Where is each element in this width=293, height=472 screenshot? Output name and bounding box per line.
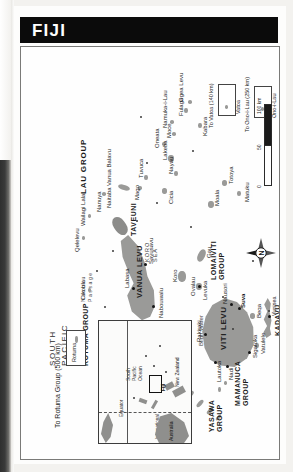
island-label-totoya: Totoya: [228, 166, 234, 184]
island-shape-rotuma: [75, 336, 78, 343]
island-label-beqa: Beqa: [256, 304, 262, 318]
city-label-suva: Suva: [240, 294, 246, 308]
reef-dot: [104, 306, 106, 308]
inset-label-rotuma: Rotuma: [72, 343, 78, 362]
island-label-vanua-balavu: Vanua Balavu: [106, 149, 113, 186]
inset-island-dot: [165, 371, 167, 373]
island-shape-koro: [178, 271, 186, 282]
island-label-nanuya: Nanuya: [96, 191, 102, 212]
reef-dot: [232, 328, 234, 330]
inset-landmass-new-zealand: [172, 386, 186, 398]
inset-island-dot: [153, 365, 155, 367]
scale-segment-light: [264, 144, 272, 186]
island-shape-cicia: [162, 188, 167, 194]
inset-landmass-new-guinea: [101, 413, 113, 443]
island-shape-cikobia: [88, 288, 91, 292]
inset-label-fiji: Fiji: [161, 384, 166, 391]
island-label-vanua-levu: VANUA LEVU: [136, 245, 144, 298]
city-marker-savusavu: [144, 263, 147, 266]
city-marker-rakiraki: [204, 333, 207, 336]
island-shape-vatoa: [225, 105, 228, 109]
island-label-mago: Mago: [134, 185, 140, 200]
scale-segment-dark: [264, 104, 272, 146]
inset-box-rotuma: Rotuma: [66, 330, 86, 366]
group-label-yasawa-group: YASAWAGROUP: [208, 382, 224, 432]
compass-rose: N: [246, 238, 276, 268]
island-label-oneata: Oneata: [154, 128, 160, 148]
inset-label-new-zealand: New Zealand: [175, 358, 180, 387]
reef-dot: [146, 162, 148, 164]
inset-landmass-vanuatu: [139, 398, 148, 404]
city-marker-nabouwalu: [152, 305, 155, 308]
city-label-savusavu: Savusavu: [148, 238, 154, 264]
island-shape-vanua-balavu: [118, 183, 131, 191]
callout-to-ono-i-lau: To Ono-i-Lau (250 km): [244, 77, 251, 132]
map-frame: SOUTH PACIFIC OCEAN KORO SEA Bligh Water…: [20, 46, 280, 460]
svg-text:N: N: [258, 250, 265, 255]
island-label-ovalau: Ovalau: [190, 277, 196, 296]
island-label-qelelevu: Qelelevu: [74, 228, 80, 252]
inset-landmass-new-caledonia: [151, 400, 158, 409]
city-label-lautoka: Lautoka: [216, 361, 222, 382]
reef-dot: [156, 202, 158, 204]
inset-box-vatoa: [218, 84, 236, 116]
city-label-nausori: Nausori: [222, 283, 228, 304]
island-shape-fulaga: [184, 108, 188, 113]
scanned-page: FIJI SOUTH PACIFIC OCEAN KORO SEA Bligh …: [0, 0, 293, 472]
city-marker-labasa: [132, 287, 135, 290]
city-label-vunisea: Vunisea: [272, 296, 278, 316]
locator-inset-map: SouthPacificOcean Equator InternationalD…: [98, 320, 192, 444]
inset-island-dot: [133, 397, 135, 399]
inset-label-equator: Equator: [119, 399, 124, 417]
island-shape-matuku: [237, 191, 241, 196]
island-shape-yasawa-2: [196, 399, 205, 408]
island-label-gau: Gau: [206, 247, 212, 258]
city-marker-nausori: [230, 303, 233, 306]
island-label-wailagi-lala: Wailagi Lala: [80, 194, 86, 226]
island-shape-totoya: [222, 180, 227, 186]
island-label-viti-levu: VITI LEVU: [220, 306, 228, 350]
page-margin-top-left: [0, 0, 11, 160]
reef-dot: [190, 226, 192, 228]
scale-tick-0: 0: [257, 185, 262, 188]
island-label-nayau: Nayau: [168, 157, 174, 174]
reef-dot: [192, 150, 194, 152]
city-label-rakiraki: Rakiraki: [196, 320, 202, 342]
island-label-vatulele: Vatulele: [260, 333, 266, 354]
island-label-cicia: Cicia: [168, 191, 174, 204]
island-label-lakeba: Lakeba: [162, 140, 168, 160]
island-label-naitaba: Naitaba: [106, 187, 112, 208]
inset-island-dot: [159, 345, 161, 347]
inset-label-australia: Australia: [169, 422, 174, 441]
map-title-bar: FIJI: [20, 17, 278, 43]
city-marker-sigatoka: [248, 351, 251, 354]
island-shape-wailagi-lala: [88, 214, 91, 218]
city-label-nabouwalu: Nabouwalu: [158, 288, 164, 318]
island-shape-qelelevu: [82, 236, 85, 240]
reef-dot: [112, 250, 114, 252]
inset-island-dot: [145, 355, 147, 357]
scale-bar: 0 50 100 km: [258, 100, 274, 186]
compass-rose-icon: N: [246, 238, 276, 268]
map-canvas: SOUTH PACIFIC OCEAN KORO SEA Bligh Water…: [22, 48, 278, 458]
callout-to-rotuma-group: To Rotuma Group (500 km): [54, 343, 61, 428]
island-label-taveuni: TAVEUNI: [130, 203, 137, 236]
island-label-namuka-i-lau: Namuka-i-Lau: [162, 90, 168, 128]
city-label-sigatoka: Sigatoka: [252, 335, 258, 358]
island-label-cikobia: Cikobia: [80, 280, 86, 300]
city-label-labasa: Labasa: [124, 268, 130, 288]
city-marker-levuka: [198, 285, 201, 288]
island-label-ogea-levu: Ogea Levu: [178, 73, 184, 102]
island-shape-nayau: [174, 171, 178, 176]
island-shape-moce: [172, 132, 176, 136]
island-shape-beqa: [250, 313, 255, 319]
scale-tick-100: 100 km: [257, 98, 262, 114]
island-shape-tuvuca: [144, 175, 148, 180]
city-label-nadi: Nadi: [228, 368, 234, 380]
reef-dot: [268, 310, 270, 312]
group-label-lomaiviti-group: LOMAIVITIGROUP: [210, 224, 226, 280]
reef-dot: [140, 116, 142, 118]
island-label-moala: Moala: [214, 190, 220, 206]
group-label-mamanuca-group: MAMANUCAGROUP: [234, 350, 250, 406]
island-label-matuku: Matuku: [244, 182, 250, 202]
